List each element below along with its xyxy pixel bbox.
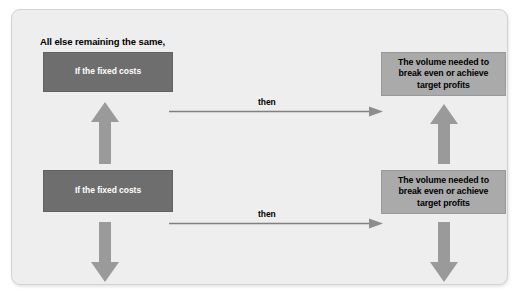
effect-box-line-1-row-1: The volume needed to [394,57,493,69]
cause-box-label-row-2: If the fixed costs [75,185,141,196]
diagram-heading: All else remaining the same, [40,36,165,47]
effect-box-label-row-2: The volume needed to break even or achie… [394,175,493,210]
connector-label-row-1: then [258,97,276,107]
effect-box-line-1-row-2: The volume needed to [394,175,493,187]
effect-box-line-3-row-1: target profits [394,80,493,92]
arrow-up-icon-cause-row-1 [91,102,119,164]
connector-arrow-row-2 [169,216,383,230]
effect-box-line-2-row-1: break even or achieve [394,68,493,80]
diagram-figure: All else remaining the same, If the fixe… [0,0,525,299]
connector-arrow-row-1 [169,104,383,118]
effect-box-line-3-row-2: target profits [394,198,493,210]
cause-box-row-2: If the fixed costs [43,170,173,212]
effect-box-line-2-row-2: break even or achieve [394,186,493,198]
connector-label-row-2: then [258,209,276,219]
diagram-panel: All else remaining the same, If the fixe… [11,9,508,285]
effect-box-row-1: The volume needed to break even or achie… [381,52,506,96]
arrow-down-icon-cause-row-2 [91,222,119,282]
effect-box-label-row-1: The volume needed to break even or achie… [394,57,493,92]
arrow-up-icon-effect-row-1 [430,104,458,164]
cause-box-row-1: If the fixed costs [43,52,173,92]
effect-box-row-2: The volume needed to break even or achie… [381,170,506,214]
arrow-down-icon-effect-row-2 [430,222,458,282]
cause-box-label-row-1: If the fixed costs [75,66,141,77]
